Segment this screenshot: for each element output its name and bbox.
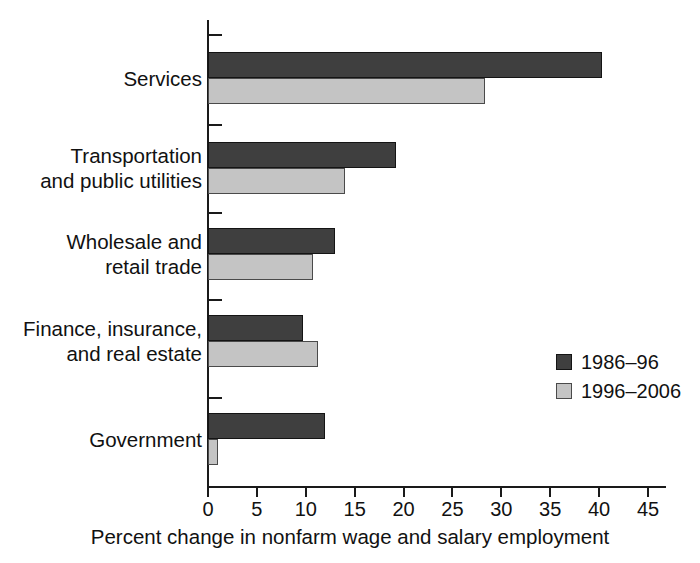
bar xyxy=(208,228,335,254)
x-axis-tick xyxy=(256,488,258,497)
category-label: Transportationand public utilities xyxy=(40,143,202,193)
category-label: Finance, insurance,and real estate xyxy=(23,316,202,366)
category-axis-tick xyxy=(209,397,222,399)
x-axis-tick-label: 40 xyxy=(576,497,622,521)
x-axis-tick xyxy=(598,488,600,497)
category-label-line: Wholesale and xyxy=(66,229,202,254)
bar xyxy=(208,439,218,465)
category-label-line: retail trade xyxy=(66,254,202,279)
x-axis-tick-label: 30 xyxy=(478,497,524,521)
x-axis-tick-label: 45 xyxy=(625,497,671,521)
bar xyxy=(208,341,318,367)
x-axis-tick xyxy=(207,488,209,497)
x-axis-tick-label: 20 xyxy=(381,497,427,521)
bar xyxy=(208,315,303,341)
x-axis-tick xyxy=(647,488,649,497)
bar-chart: 051015202530354045ServicesTransportation… xyxy=(0,0,700,563)
legend-label-1996-2006: 1996–2006 xyxy=(581,380,681,402)
category-axis-tick xyxy=(209,34,222,36)
category-label: Wholesale andretail trade xyxy=(66,229,202,279)
category-axis-tick xyxy=(209,124,222,126)
legend-swatch-1996-2006-icon xyxy=(556,383,572,399)
category-label-line: Transportation xyxy=(40,143,202,168)
x-axis-tick-label: 10 xyxy=(283,497,329,521)
x-axis-tick-label: 35 xyxy=(527,497,573,521)
legend-swatch-1986-96-icon xyxy=(556,354,572,370)
category-label-line: Services xyxy=(123,66,202,91)
x-axis-tick-label: 0 xyxy=(185,497,231,521)
category-label-line: Finance, insurance, xyxy=(23,316,202,341)
category-axis-tick xyxy=(209,299,222,301)
x-axis-tick xyxy=(549,488,551,497)
x-axis-tick-label: 25 xyxy=(429,497,475,521)
x-axis-tick-label: 15 xyxy=(332,497,378,521)
category-label-line: and public utilities xyxy=(40,168,202,193)
category-label-line: and real estate xyxy=(23,341,202,366)
category-axis-tick xyxy=(209,212,222,214)
x-axis-tick xyxy=(500,488,502,497)
x-axis-tick xyxy=(354,488,356,497)
x-axis-tick xyxy=(403,488,405,497)
category-label-line: Government xyxy=(89,427,202,452)
category-label: Government xyxy=(89,427,202,452)
x-axis-tick xyxy=(305,488,307,497)
category-label: Services xyxy=(123,66,202,91)
bar xyxy=(208,168,345,194)
x-axis-tick xyxy=(451,488,453,497)
legend: 1986–96 1996–2006 xyxy=(556,347,681,405)
x-axis-tick-label: 5 xyxy=(234,497,280,521)
bar xyxy=(208,78,485,104)
bar xyxy=(208,52,602,78)
bar xyxy=(208,413,325,439)
bar xyxy=(208,142,396,168)
x-axis-title: Percent change in nonfarm wage and salar… xyxy=(0,524,700,550)
legend-label-1986-96: 1986–96 xyxy=(581,351,659,373)
bar xyxy=(208,254,313,280)
legend-item: 1996–2006 xyxy=(556,376,681,405)
legend-item: 1986–96 xyxy=(556,347,681,376)
